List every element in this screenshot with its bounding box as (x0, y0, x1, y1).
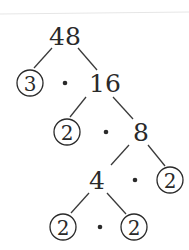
multiply-dot (133, 178, 138, 183)
node-2c-circled: 2 (50, 214, 76, 240)
edge-8-4 (111, 145, 129, 165)
node-2a-label: 2 (61, 121, 74, 145)
multiply-dot (98, 225, 103, 230)
node-2d-circled: 2 (121, 214, 147, 240)
node-48: 48 (49, 22, 81, 51)
node-2c-label: 2 (57, 216, 70, 240)
edge-4-2-right (107, 193, 126, 214)
node-3-circled: 3 (17, 70, 43, 96)
multiply-dot (104, 130, 109, 135)
node-2b-label: 2 (164, 169, 177, 193)
node-16: 16 (89, 69, 121, 98)
multiply-dot (63, 81, 68, 86)
edge-16-2 (70, 97, 86, 117)
edge-16-8 (113, 97, 133, 119)
scan-artifact (0, 12, 189, 14)
factor-tree-diagram: 48 3 16 2 8 4 2 2 2 (0, 0, 189, 250)
node-3-label: 3 (24, 72, 37, 96)
node-2d-label: 2 (128, 216, 141, 240)
node-4: 4 (89, 166, 105, 195)
edge-4-2-left (71, 193, 89, 213)
node-2a-circled: 2 (54, 119, 80, 145)
node-8: 8 (133, 118, 149, 147)
edge-48-16 (78, 48, 97, 70)
node-2b-circled: 2 (157, 167, 183, 193)
edge-48-3 (34, 48, 52, 68)
edge-8-2 (148, 145, 165, 166)
